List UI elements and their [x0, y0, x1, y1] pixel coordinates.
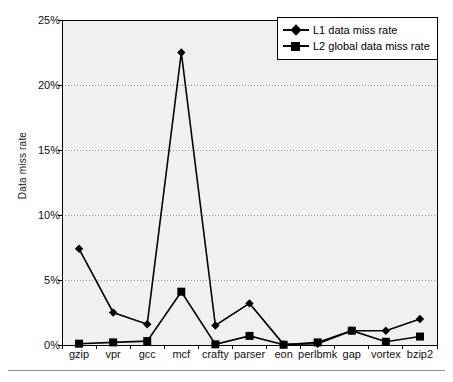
legend-label-l1: L1 data miss rate — [313, 24, 397, 36]
y-axis-tick-labels: 0%5%10%15%20%25% — [16, 0, 60, 382]
legend-item-l1: L1 data miss rate — [283, 22, 430, 38]
y-tick-label: 0% — [20, 339, 60, 351]
legend-item-l2: L2 global data miss rate — [283, 38, 430, 54]
legend-label-l2: L2 global data miss rate — [313, 40, 430, 52]
chart-figure: Data miss rate 0%5%10%15%20%25% gzipvprg… — [0, 0, 453, 382]
footer-divider — [8, 370, 445, 371]
y-tick-label: 20% — [20, 79, 60, 91]
y-tick-label: 10% — [20, 209, 60, 221]
square-marker-icon — [283, 39, 309, 53]
y-tick-label: 5% — [20, 274, 60, 286]
chart-legend: L1 data miss rate L2 global data miss ra… — [277, 17, 438, 60]
y-tick-label: 15% — [20, 144, 60, 156]
y-tick-label: 25% — [20, 14, 60, 26]
diamond-marker-icon — [283, 23, 309, 37]
